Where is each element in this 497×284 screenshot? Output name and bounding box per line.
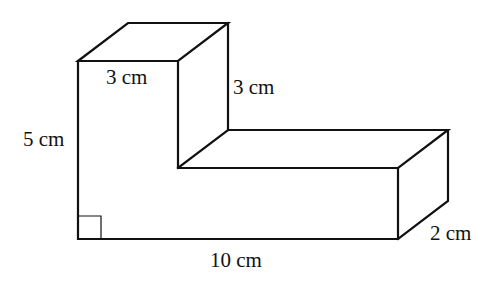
label-top-height: 3 cm	[233, 75, 274, 99]
label-bottom-length: 10 cm	[210, 248, 262, 272]
upper-block-top-face	[78, 23, 228, 61]
l-shaped-prism-diagram: 3 cm 3 cm 5 cm 10 cm 2 cm	[0, 0, 497, 284]
lower-block-top-face	[178, 130, 448, 168]
label-top-width: 3 cm	[106, 65, 147, 89]
label-depth: 2 cm	[430, 221, 471, 245]
label-left-height: 5 cm	[23, 127, 64, 151]
right-angle-marker	[78, 216, 101, 239]
